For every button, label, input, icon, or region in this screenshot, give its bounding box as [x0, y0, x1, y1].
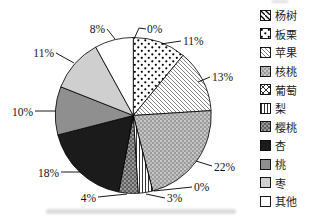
- slice-label-cherry: 4%: [81, 192, 97, 204]
- legend-label-cherry: 樱桃: [275, 119, 297, 135]
- slice-label-poplar: 0%: [147, 23, 163, 35]
- legend-swatch-poplar: [260, 10, 271, 21]
- legend-item-jujube: 枣: [260, 173, 312, 192]
- legend-label-apple: 苹果: [275, 44, 297, 60]
- slice-label-jujube: 11%: [33, 47, 54, 59]
- legend-swatch-apricot: [260, 140, 271, 151]
- slice-label-apricot: 18%: [38, 167, 60, 179]
- legend-label-poplar: 杨树: [275, 7, 297, 23]
- leader-line-cherry: [98, 194, 127, 197]
- legend-label-other: 其他: [275, 193, 297, 209]
- legend-swatch-pear: [260, 103, 271, 114]
- corner-smudge: [272, 0, 288, 3]
- legend-swatch-grape: [260, 84, 271, 95]
- legend-item-apricot: 杏: [260, 136, 312, 155]
- leader-line-chestnut: [161, 41, 181, 44]
- slice-label-peach: 10%: [12, 106, 34, 118]
- legend: 杨树板栗苹果核桃葡萄梨樱桃杏桃枣其他: [260, 6, 312, 211]
- slice-label-other: 8%: [90, 23, 106, 35]
- legend-item-cherry: 樱桃: [260, 118, 312, 137]
- legend-item-grape: 葡萄: [260, 80, 312, 99]
- legend-item-walnut: 核桃: [260, 62, 312, 81]
- leader-line-other: [107, 29, 115, 39]
- legend-label-walnut: 核桃: [275, 63, 297, 79]
- legend-swatch-peach: [260, 159, 271, 170]
- legend-label-peach: 桃: [275, 156, 286, 172]
- legend-label-apricot: 杏: [275, 137, 286, 153]
- leader-line-pear: [146, 194, 165, 198]
- legend-item-pear: 梨: [260, 99, 312, 118]
- legend-label-jujube: 枣: [275, 175, 286, 191]
- slice-label-walnut: 22%: [214, 161, 236, 173]
- legend-label-pear: 梨: [275, 100, 286, 116]
- legend-item-poplar: 杨树: [260, 6, 312, 25]
- legend-item-peach: 桃: [260, 155, 312, 174]
- slice-label-apple: 13%: [212, 71, 234, 83]
- legend-swatch-cherry: [260, 121, 271, 132]
- caption-smudge: [46, 209, 236, 214]
- leader-line-jujube: [56, 53, 74, 63]
- slice-label-grape: 0%: [194, 181, 210, 193]
- slice-label-pear: 3%: [167, 192, 183, 204]
- legend-item-other: 其他: [260, 192, 312, 211]
- fruit-area-pie-figure: 0%11%13%22%0%3%4%18%10%11%8% 杨树板栗苹果核桃葡萄梨…: [0, 0, 312, 217]
- legend-swatch-apple: [260, 47, 271, 58]
- legend-swatch-walnut: [260, 66, 271, 77]
- legend-item-apple: 苹果: [260, 43, 312, 62]
- leader-line-walnut: [196, 161, 212, 166]
- legend-label-grape: 葡萄: [275, 82, 297, 98]
- slice-label-chestnut: 11%: [183, 35, 204, 47]
- legend-swatch-jujube: [260, 177, 271, 188]
- legend-swatch-chestnut: [260, 28, 271, 39]
- legend-item-chestnut: 板栗: [260, 25, 312, 44]
- legend-swatch-other: [260, 196, 271, 207]
- legend-label-chestnut: 板栗: [275, 26, 297, 42]
